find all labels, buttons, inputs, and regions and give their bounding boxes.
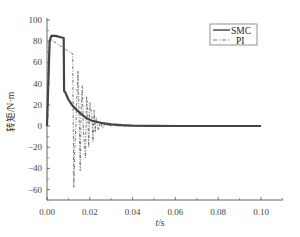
y-tick-label: 40 [33,79,43,89]
y-tick-label: 60 [33,57,43,67]
legend-label-smc: SMC [231,26,251,36]
torque-chart: 100806040200−20−40−600.000.020.040.060.0… [0,0,300,237]
series-smc-line [47,36,261,126]
x-axis-label: t/s [156,218,165,228]
x-tick-label: 0.06 [168,207,184,217]
y-tick-label: 0 [38,121,43,131]
y-tick-label: −60 [28,185,43,195]
x-tick-label: 0.08 [210,207,226,217]
series-layer [47,36,261,188]
y-tick-label: 100 [29,15,43,25]
legend: SMC PI [210,24,257,46]
y-tick-label: −40 [28,163,43,173]
x-tick-label: 0.10 [253,207,269,217]
legend-label-pi: PI [236,36,244,46]
y-tick-label: −20 [28,142,43,152]
y-tick-label: 80 [33,36,43,46]
x-tick-label: 0.02 [82,207,98,217]
x-tick-label: 0.04 [125,207,141,217]
x-tick-label: 0.00 [39,207,55,217]
y-tick-label: 20 [33,100,43,110]
y-axis-label: 转矩/N·m [5,91,16,132]
